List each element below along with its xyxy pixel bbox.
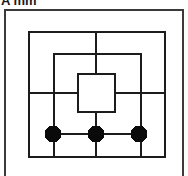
node-right xyxy=(131,126,148,143)
caption-strip: A mm xyxy=(0,0,188,9)
caption-label: A mm xyxy=(1,0,37,8)
figure-frame xyxy=(4,9,184,176)
schematic-diagram xyxy=(6,11,186,176)
figure-page: A mm xyxy=(0,0,188,176)
inner-square-fill xyxy=(79,75,114,111)
nodes-group xyxy=(45,74,148,143)
node-left xyxy=(45,126,62,143)
node-center xyxy=(88,126,105,143)
